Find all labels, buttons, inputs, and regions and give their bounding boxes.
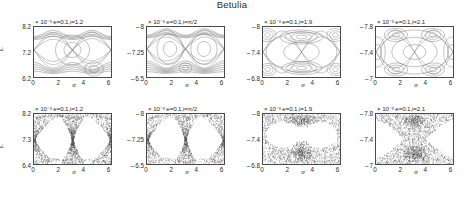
plot-area-bottom-4[interactable] [375,113,454,165]
x-tick-bottom-4-2: 4 [424,166,428,173]
x-axis-label-bottom-4: σ [414,168,417,176]
x-tick-bottom-4-0: 0 [373,166,377,173]
y-tick-bottom-4-2: –7 [345,162,373,169]
y-tick-bottom-4-1: –7.4 [345,136,373,143]
x-tick-bottom-4-1: 2 [398,166,402,173]
x-tick-bottom-4-3: 6 [449,166,453,173]
figure-canvas: Betulia L L × 10⁻³ e=0.1,i=1.28.27.26.20… [0,0,464,199]
y-tick-bottom-4-0: –7.8 [345,110,373,117]
plot-data-bottom-4 [376,114,453,164]
panel-title-bottom-4: × 10⁻³ e=0.1,i=2.1 [377,105,425,112]
panel-bottom-4: × 10⁻³ e=0.1,i=2.1–7.8–7.4–70246σ [0,0,464,199]
